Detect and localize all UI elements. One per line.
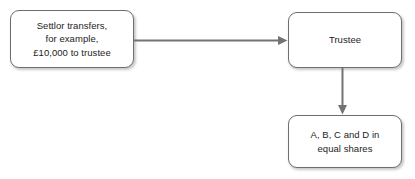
- node-trustee-label: Trustee: [325, 33, 365, 47]
- node-settlor: Settlor transfers, for example, £10,000 …: [10, 10, 134, 68]
- node-trustee: Trustee: [288, 12, 402, 68]
- edge-trustee-to-beneficiaries-arrowhead: [338, 105, 347, 115]
- edge-trustee-to-beneficiaries: [338, 68, 347, 115]
- edge-settlor-to-trustee-arrowhead: [278, 36, 288, 45]
- node-beneficiaries: A, B, C and D in equal shares: [288, 115, 402, 168]
- diagram-canvas: Settlor transfers, for example, £10,000 …: [0, 0, 415, 179]
- edge-settlor-to-trustee: [134, 36, 288, 45]
- node-settlor-label: Settlor transfers, for example, £10,000 …: [29, 19, 114, 60]
- node-beneficiaries-label: A, B, C and D in equal shares: [307, 128, 384, 155]
